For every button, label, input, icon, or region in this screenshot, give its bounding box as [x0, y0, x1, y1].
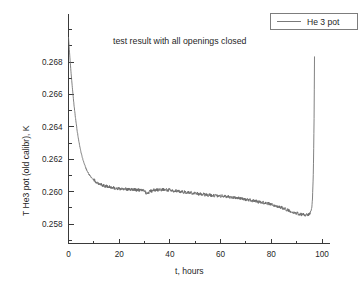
- x-axis-title: t, hours: [175, 266, 204, 276]
- x-tick-label: 0: [66, 250, 71, 259]
- chart-screenshot: He 3 pot test result with all openings c…: [0, 0, 363, 291]
- x-axis-ticks: 020406080100: [66, 239, 329, 259]
- data-curve-he3pot: [69, 37, 315, 216]
- chart-title: test result with all openings closed: [113, 36, 247, 46]
- chart-legend: He 3 pot: [271, 14, 358, 30]
- y-tick-label: 0.258: [42, 220, 63, 229]
- x-tick-label: 100: [315, 250, 329, 259]
- y-tick-label: 0.268: [42, 58, 63, 67]
- y-tick-label: 0.262: [42, 155, 63, 164]
- legend-label-he3pot: He 3 pot: [307, 17, 340, 27]
- y-tick-label: 0.260: [42, 188, 63, 197]
- y-tick-label: 0.264: [42, 123, 63, 132]
- x-tick-label: 20: [115, 250, 125, 259]
- y-axis-title: T He3 pot (old calibr), K: [21, 125, 31, 216]
- line-chart: He 3 pot test result with all openings c…: [0, 0, 363, 291]
- y-tick-label: 0.266: [42, 90, 63, 99]
- x-tick-label: 80: [267, 250, 277, 259]
- x-tick-label: 60: [216, 250, 226, 259]
- x-tick-label: 40: [165, 250, 175, 259]
